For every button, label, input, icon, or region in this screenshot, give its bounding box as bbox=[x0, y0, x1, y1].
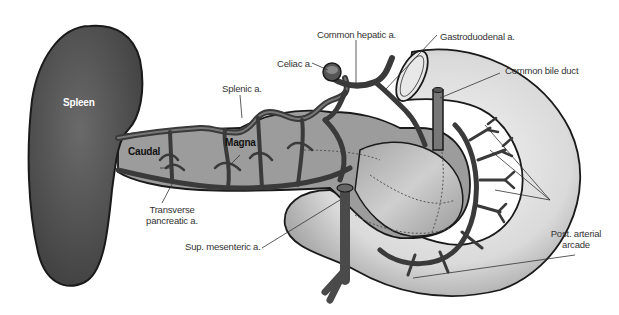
label-caudal: Caudal bbox=[128, 146, 160, 157]
label-celiac-artery: Celiac a. bbox=[277, 58, 312, 69]
common-bile-duct bbox=[433, 88, 443, 151]
label-spleen: Spleen bbox=[63, 97, 95, 108]
celiac-trunk bbox=[323, 63, 341, 81]
label-line: Post. arterial bbox=[545, 228, 607, 239]
label-common-bile-duct: Common bile duct bbox=[505, 65, 578, 76]
pancreas-arterial-diagram: Spleen Caudal Magna Splenic a. Celiac a.… bbox=[0, 0, 619, 315]
label-magna: Magna bbox=[225, 137, 256, 148]
label-post-arterial-arcade: Post. arterial arcade bbox=[545, 228, 607, 250]
label-sup-mesenteric-artery: Sup. mesenteric a. bbox=[185, 241, 261, 252]
anatomy-illustration bbox=[0, 0, 619, 315]
label-line: arcade bbox=[545, 239, 607, 250]
label-transverse-pancreatic-artery: Transverse pancreatic a. bbox=[142, 204, 202, 226]
label-line: pancreatic a. bbox=[142, 215, 202, 226]
label-common-hepatic-artery: Common hepatic a. bbox=[317, 29, 396, 40]
label-splenic-artery: Splenic a. bbox=[222, 83, 262, 94]
label-line: Transverse bbox=[142, 204, 202, 215]
label-gastroduodenal-artery: Gastroduodenal a. bbox=[440, 31, 515, 42]
sup-mesenteric-artery bbox=[337, 184, 353, 192]
